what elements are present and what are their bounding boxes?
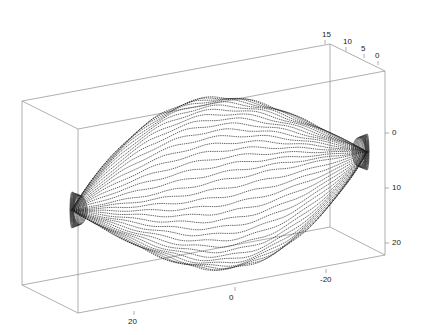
box-edge-depth [330, 227, 385, 255]
z-tick-label: 10 [392, 184, 401, 192]
box-edge-back [22, 44, 330, 101]
y-tick-label: 10 [343, 38, 352, 46]
box-edge-depth [22, 101, 78, 129]
x-tick-label: 0 [229, 294, 233, 302]
y-tick-label: 0 [375, 52, 379, 60]
x-tick-label: -20 [320, 276, 332, 284]
mesh-curve [72, 109, 367, 210]
z-tick-label: 0 [392, 129, 396, 137]
mesh-curve [72, 152, 367, 210]
mesh-curve [72, 152, 367, 210]
mesh-curve [72, 129, 367, 210]
y-tick-label: 5 [361, 45, 365, 53]
mesh-curve [72, 152, 367, 269]
mesh-curve [72, 98, 367, 210]
box-edge-depth [22, 285, 78, 313]
box-edge-front [78, 255, 385, 313]
box-edge-back [22, 227, 330, 285]
mesh-curve [72, 97, 367, 210]
box-edge-front [78, 71, 385, 129]
mesh-curve [72, 152, 367, 210]
mesh-curve [72, 152, 367, 211]
mesh-curve [72, 152, 367, 210]
mesh-curve [72, 152, 367, 230]
z-tick-label: 20 [392, 239, 401, 247]
mesh-curve [72, 152, 367, 223]
surface-mesh [70, 97, 369, 271]
x-tick-label: 20 [128, 318, 137, 326]
mesh-curve [72, 152, 367, 210]
mesh-curve [72, 152, 367, 253]
mesh-curve [72, 98, 367, 210]
y-tick-label: 15 [322, 31, 331, 39]
mesh-curve [72, 114, 367, 210]
surface-plot [0, 0, 423, 335]
